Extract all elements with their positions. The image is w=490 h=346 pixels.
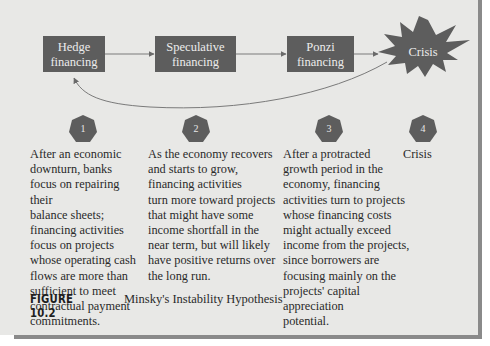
stage-label-line2: financing (166, 55, 224, 70)
stage-label-line1: Speculative (166, 40, 224, 55)
desc-line: since borrowers are (283, 253, 413, 268)
desc-line: and starts to grow, (148, 162, 278, 177)
desc-line: financing activities (148, 177, 278, 192)
desc-line: downturn, banks (30, 162, 145, 177)
desc-line: near term, but will likely (148, 238, 278, 253)
desc-line: have positive returns over (148, 253, 278, 268)
desc-line: After an economic (30, 147, 145, 162)
description-stage-3: After a protracted growth period in the … (283, 147, 413, 329)
marker-number-4: 4 (408, 123, 438, 134)
desc-line: flows are more than (30, 269, 145, 284)
desc-line: balance sheets; (30, 208, 145, 223)
description-stage-2: As the economy recovers and starts to gr… (148, 147, 278, 284)
stage-label-line2: financing (50, 55, 97, 70)
figure-title: Minsky's Instability Hypothesis (124, 292, 283, 307)
desc-line: focus on repairing their (30, 177, 145, 207)
desc-line: might actually exceed (283, 223, 413, 238)
desc-line: projects' capital appreciation (283, 284, 413, 314)
stage-label-line1: Hedge (50, 40, 97, 55)
desc-line: whose financing costs (283, 208, 413, 223)
hedge-financing-box: Hedge financing (43, 36, 105, 72)
desc-line: As the economy recovers (148, 147, 278, 162)
marker-number-2: 2 (181, 123, 211, 134)
marker-number-1: 1 (68, 123, 98, 134)
stage-label-line2: financing (297, 55, 344, 70)
desc-line: Crisis (403, 147, 463, 162)
desc-line: economy, financing (283, 177, 413, 192)
desc-line: growth period in the (283, 162, 413, 177)
desc-line: that might have some (148, 208, 278, 223)
desc-line: activities turn to projects (283, 193, 413, 208)
desc-line: financing activities (30, 223, 145, 238)
desc-line: focus on projects (30, 238, 145, 253)
desc-line: After a protracted (283, 147, 413, 162)
crisis-label: Crisis (393, 45, 453, 60)
figure-caption: FIGURE 10.2 Minsky's Instability Hypothe… (30, 292, 283, 320)
heptagon-markers (69, 115, 437, 142)
figure-number: FIGURE 10.2 (30, 292, 100, 320)
desc-line: focusing mainly on the (283, 269, 413, 284)
desc-line: the long run. (148, 269, 278, 284)
desc-line: income from the projects, (283, 238, 413, 253)
desc-line: whose operating cash (30, 253, 145, 268)
desc-line: income shortfall in the (148, 223, 278, 238)
description-stage-4: Crisis (403, 147, 463, 162)
desc-line: potential. (283, 314, 413, 329)
ponzi-financing-box: Ponzi financing (287, 36, 354, 72)
desc-line: turn more toward projects (148, 193, 278, 208)
marker-number-3: 3 (314, 123, 344, 134)
speculative-financing-box: Speculative financing (155, 36, 236, 72)
stage-label-line1: Ponzi (297, 40, 344, 55)
